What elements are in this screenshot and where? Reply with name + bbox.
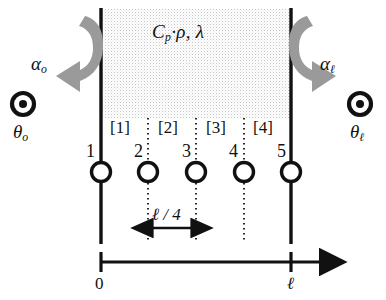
material-lambda-symbol: λ: [196, 21, 205, 42]
axis-label-origin: 0: [95, 275, 104, 292]
left-theta-subscript: o: [22, 131, 28, 144]
left-convection-coefficient-label: αo: [31, 54, 47, 76]
material-cp-symbol: C: [152, 21, 165, 42]
material-rho-symbol: ρ: [176, 21, 185, 42]
axis-label-length: ℓ: [287, 275, 294, 292]
node-label-2: 2: [134, 142, 143, 160]
left-ambient-bullseye-dot-icon: [19, 100, 27, 108]
right-theta-symbol: θ: [350, 121, 359, 142]
left-convection-arrow-icon: [56, 16, 103, 92]
node-marker: [187, 163, 206, 182]
element-label-1: [1]: [110, 119, 130, 136]
right-alpha-symbol: α: [320, 53, 330, 74]
node-label-5: 5: [277, 142, 286, 160]
node-label-4: 4: [229, 142, 238, 160]
node-marker: [235, 163, 254, 182]
right-convection-coefficient-label: αℓ: [320, 54, 335, 76]
node-label-1: 1: [86, 142, 95, 160]
heat-conduction-diagram: Cp·ρ, λ αo αℓ θo θℓ [1] [2] [3] [4] 1 2 …: [0, 0, 386, 300]
element-label-3: [3]: [206, 119, 226, 136]
node-marker: [282, 163, 301, 182]
left-ambient-temperature-label: θo: [13, 122, 28, 144]
dimension-label: ℓ / 4: [152, 206, 181, 223]
right-alpha-subscript: ℓ: [330, 63, 335, 76]
material-property-label: Cp·ρ, λ: [152, 22, 204, 44]
left-theta-symbol: θ: [13, 121, 22, 142]
node-marker: [139, 163, 158, 182]
material-comma: ,: [186, 21, 191, 42]
right-theta-subscript: ℓ: [359, 131, 364, 144]
element-label-4: [4]: [253, 119, 273, 136]
node-label-3: 3: [182, 142, 191, 160]
left-alpha-subscript: o: [41, 63, 47, 76]
diagram-canvas: [0, 0, 386, 300]
right-ambient-temperature-label: θℓ: [350, 122, 364, 144]
right-ambient-bullseye-dot-icon: [356, 100, 364, 108]
left-alpha-symbol: α: [31, 53, 41, 74]
node-marker: [92, 163, 111, 182]
element-label-2: [2]: [158, 119, 178, 136]
